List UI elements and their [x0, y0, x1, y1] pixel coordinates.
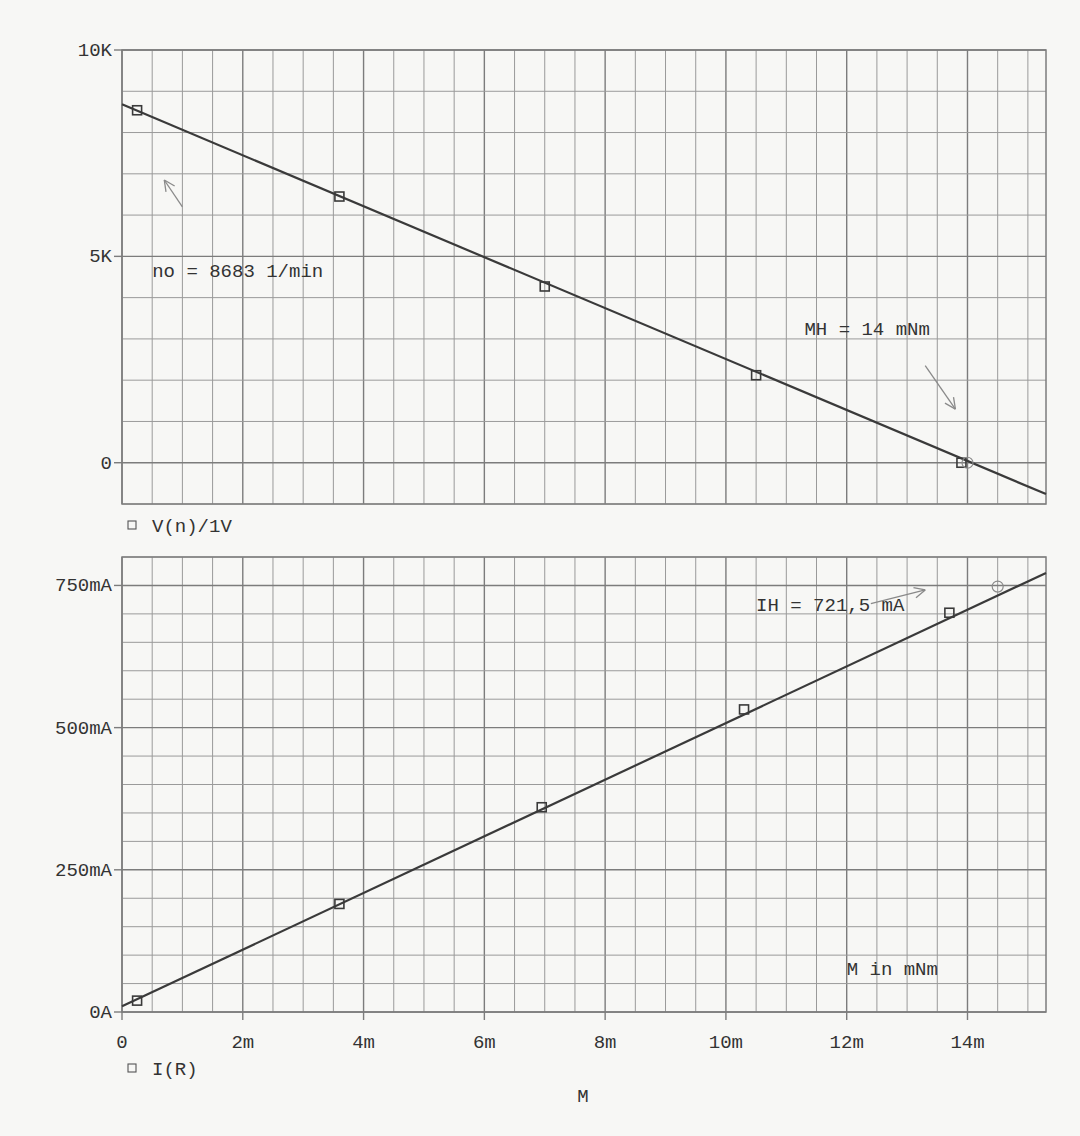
legend-label: V(n)/1V	[152, 516, 232, 538]
x-tick-label: 10m	[709, 1032, 743, 1054]
x-tick-label: 14m	[950, 1032, 984, 1054]
legend-current: I(R)	[128, 1059, 198, 1081]
x-axis-label: M	[577, 1086, 588, 1108]
y-tick-label: 250mA	[55, 860, 113, 882]
legend-square-icon	[128, 1064, 136, 1072]
chart-figure: 10K5K0no = 8683 1/minMH = 14 mNmV(n)/1V7…	[0, 0, 1080, 1136]
y-tick-label: 500mA	[55, 718, 113, 740]
y-tick-label: 5K	[89, 246, 112, 268]
legend-label: I(R)	[152, 1059, 198, 1081]
x-tick-label: 12m	[830, 1032, 864, 1054]
y-tick-label: 0	[101, 453, 112, 475]
x-tick-label: 6m	[473, 1032, 496, 1054]
annotation-label: M in mNm	[847, 959, 938, 981]
x-tick-label: 8m	[594, 1032, 617, 1054]
legend-square-icon	[128, 521, 136, 529]
legend-speed: V(n)/1V	[128, 516, 232, 538]
plot-speed: 10K5K0no = 8683 1/minMH = 14 mNmV(n)/1V	[78, 40, 1046, 538]
annotation-label: MH = 14 mNm	[804, 319, 929, 341]
x-tick-label: 0	[116, 1032, 127, 1054]
arrow-icon	[164, 180, 182, 207]
chart-svg: 10K5K0no = 8683 1/minMH = 14 mNmV(n)/1V7…	[0, 0, 1080, 1136]
annotation-label: IH = 721,5 mA	[756, 595, 905, 617]
x-tick-label: 2m	[231, 1032, 254, 1054]
y-tick-label: 750mA	[55, 575, 113, 597]
annotation-label: no = 8683 1/min	[152, 261, 323, 283]
grid	[122, 557, 1046, 1012]
y-tick-label: 0A	[89, 1002, 112, 1024]
x-tick-label: 4m	[352, 1032, 375, 1054]
plot-current: 750mA500mA250mA0A02m4m6m8m10m12m14mIH = …	[55, 557, 1046, 1108]
arrow-icon	[925, 366, 955, 409]
y-tick-label: 10K	[78, 40, 113, 62]
